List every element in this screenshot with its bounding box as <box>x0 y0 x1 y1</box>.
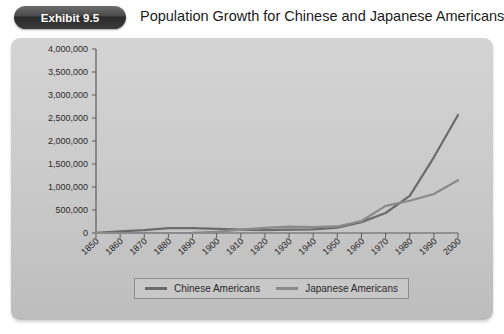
x-tick-label: 1920 <box>248 236 270 257</box>
data-series-group <box>96 115 458 233</box>
y-tick-label: 3,000,000 <box>48 90 88 100</box>
x-tick-label: 1940 <box>296 236 318 257</box>
y-axis-ticks: 0500,0001,000,0001,500,0002,000,0002,500… <box>48 44 96 238</box>
x-tick-label: 1900 <box>200 236 222 257</box>
x-tick-label: 1970 <box>369 236 391 257</box>
chart-panel: 0500,0001,000,0001,500,0002,000,0002,500… <box>11 38 493 320</box>
y-tick-label: 1,500,000 <box>48 159 88 169</box>
x-tick-label: 1980 <box>393 236 415 257</box>
x-tick-label: 1930 <box>272 236 294 257</box>
exhibit-badge: Exhibit 9.5 <box>14 6 126 29</box>
y-tick-label: 3,500,000 <box>48 67 88 77</box>
x-tick-label: 2000 <box>441 236 463 257</box>
y-tick-label: 2,500,000 <box>48 113 88 123</box>
legend-swatch <box>276 287 298 290</box>
legend-entry[interactable]: Japanese Americans <box>276 283 398 294</box>
y-tick-label: 1,000,000 <box>48 182 88 192</box>
series-line <box>96 180 458 233</box>
figure-header: Exhibit 9.5 Population Growth for Chines… <box>0 0 504 38</box>
exhibit-badge-label: Exhibit 9.5 <box>41 12 100 24</box>
x-axis-ticks: 1850186018701880189019001910192019301940… <box>79 233 463 257</box>
chart-legend: Chinese AmericansJapanese Americans <box>134 278 409 299</box>
x-tick-label: 1960 <box>345 236 367 257</box>
x-tick-label: 1880 <box>152 236 174 257</box>
y-tick-label: 2,000,000 <box>48 136 88 146</box>
exhibit-figure: Exhibit 9.5 Population Growth for Chines… <box>0 0 504 334</box>
legend-swatch <box>145 287 167 290</box>
y-tick-label: 4,000,000 <box>48 44 88 54</box>
legend-label: Japanese Americans <box>305 283 398 294</box>
series-line <box>96 115 458 233</box>
y-tick-label: 0 <box>83 228 88 238</box>
y-tick-label: 500,000 <box>55 205 88 215</box>
legend-label: Chinese Americans <box>174 283 260 294</box>
x-tick-label: 1990 <box>417 236 439 257</box>
x-tick-label: 1950 <box>321 236 343 257</box>
x-tick-label: 1850 <box>79 236 101 257</box>
legend-entry[interactable]: Chinese Americans <box>145 283 260 294</box>
x-tick-label: 1890 <box>176 236 198 257</box>
x-tick-label: 1870 <box>128 236 150 257</box>
page-title: Population Growth for Chinese and Japane… <box>140 8 504 24</box>
x-tick-label: 1860 <box>103 236 125 257</box>
x-tick-label: 1910 <box>224 236 246 257</box>
